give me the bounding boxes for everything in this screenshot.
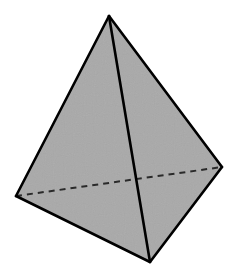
- tetrahedron-diagram: [0, 0, 235, 272]
- diagram-canvas: [0, 0, 235, 272]
